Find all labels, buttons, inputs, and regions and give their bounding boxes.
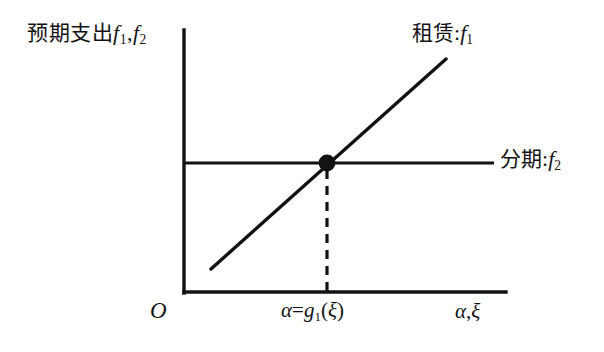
series-label-installment-text: 分期 xyxy=(500,147,542,171)
x-tick-close-paren: ) xyxy=(337,298,344,322)
x-axis-label: α,ξ xyxy=(455,301,480,322)
y-axis-label-text: 预期支出 xyxy=(27,21,113,45)
y-axis-label: 预期支出f1,f2 xyxy=(27,22,147,44)
origin-label: O xyxy=(150,299,167,322)
series-label-installment-sub: 2 xyxy=(554,158,561,173)
x-tick-g-sub: 1 xyxy=(314,309,321,324)
series-label-rental: 租赁:f1 xyxy=(412,22,473,44)
series-label-rental-text: 租赁 xyxy=(412,21,454,45)
x-tick-alpha: α xyxy=(281,298,292,322)
intersection-point-marker xyxy=(319,155,336,172)
y-axis-label-f2: f xyxy=(133,20,140,45)
series-label-installment: 分期:f2 xyxy=(500,148,561,170)
x-tick-xi: ξ xyxy=(328,298,337,322)
figure-canvas: 预期支出f1,f2 租赁:f1 分期:f2 O α=g1(ξ) α,ξ xyxy=(0,0,604,352)
x-tick-g: g xyxy=(304,298,315,322)
x-tick-label-intersection: α=g1(ξ) xyxy=(281,300,344,321)
x-axis-label-alpha: α xyxy=(455,299,466,323)
x-axis-label-xi: ξ xyxy=(471,299,480,323)
y-axis-label-f1-sub: 1 xyxy=(120,32,127,47)
x-tick-open-paren: ( xyxy=(321,298,328,322)
y-axis-label-f1: f xyxy=(113,20,120,45)
series-label-rental-sub: 1 xyxy=(466,32,473,47)
y-axis-label-f2-sub: 2 xyxy=(140,32,147,47)
x-tick-equals: = xyxy=(292,298,304,322)
